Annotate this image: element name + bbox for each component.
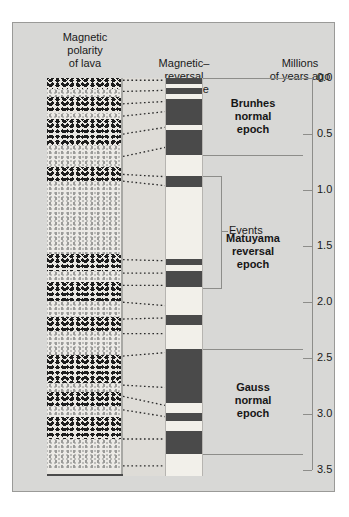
magnetic-reversal-timescale <box>165 78 203 476</box>
lava-column-title: Magnetic polarity of lava <box>37 31 133 70</box>
lava-layer-reversed <box>47 383 123 392</box>
lava-layer-normal <box>47 167 123 182</box>
lava-layer-normal <box>47 119 123 145</box>
events-bracket-group <box>203 78 249 476</box>
lava-layer-normal <box>47 282 123 301</box>
lava-layer-normal <box>47 417 123 439</box>
correlation-line <box>123 385 165 387</box>
lava-layer-reversed <box>47 89 123 97</box>
events-bracket <box>203 176 222 289</box>
normal-polarity-band <box>166 349 203 403</box>
normal-polarity-band <box>166 431 203 453</box>
lava-layer-reversed <box>47 271 123 282</box>
correlation-line <box>123 102 165 104</box>
axis-tick-label: 2.0 <box>317 295 332 307</box>
lava-baseline-rule <box>47 474 123 476</box>
lava-layer-reversed <box>47 406 123 416</box>
lava-layer-normal <box>47 392 123 407</box>
axis-tick <box>303 414 312 415</box>
lava-layer-reversed <box>47 301 123 317</box>
correlation-line <box>123 318 165 319</box>
normal-polarity-band <box>166 271 203 287</box>
lava-polarity-column <box>47 78 123 476</box>
axis-tick-label: 1.0 <box>317 183 332 195</box>
lava-layer-normal <box>47 355 123 383</box>
lava-layer-reversed <box>47 331 123 355</box>
normal-polarity-band <box>166 78 203 84</box>
normal-polarity-band <box>166 99 203 125</box>
events-label: Events <box>229 224 263 236</box>
correlation-line <box>123 302 165 305</box>
age-axis: 0.00.51.01.52.02.53.03.5 <box>303 63 349 483</box>
lava-layer-normal <box>47 97 123 113</box>
normal-polarity-band <box>166 88 203 94</box>
lava-layer-reversed <box>47 145 123 166</box>
normal-polarity-band <box>166 259 203 266</box>
axis-tick <box>303 470 312 471</box>
correlation-line <box>123 112 165 116</box>
axis-tick <box>303 134 312 135</box>
normal-polarity-band <box>166 315 203 325</box>
correlation-line <box>123 174 165 176</box>
axis-tick-label: 2.5 <box>317 351 332 363</box>
axis-tick-label: 1.5 <box>317 239 332 251</box>
lava-layer-normal <box>47 317 123 332</box>
correlation-line <box>123 181 165 185</box>
lava-layer-reversed <box>47 181 123 254</box>
figure-panel: Magnetic polarity of lava Magnetic– reve… <box>12 22 335 492</box>
events-bracket-stem <box>221 231 228 232</box>
lava-layer-normal <box>47 254 123 271</box>
correlation-tie-lines <box>123 78 165 476</box>
axis-spine <box>312 78 313 470</box>
lava-layer-normal <box>47 78 123 89</box>
correlation-line <box>123 353 165 356</box>
correlation-line <box>123 148 165 157</box>
axis-tick-label: 0.0 <box>317 71 332 83</box>
axis-tick <box>303 358 312 359</box>
normal-polarity-band <box>166 413 203 421</box>
axis-tick <box>303 246 312 247</box>
axis-tick-label: 0.5 <box>317 127 332 139</box>
correlation-line <box>123 90 165 91</box>
lava-layer-reversed <box>47 113 123 120</box>
axis-tick <box>303 302 312 303</box>
normal-polarity-band <box>166 176 203 187</box>
correlation-line <box>123 396 165 405</box>
correlation-line <box>123 410 165 417</box>
axis-tick-label: 3.0 <box>317 407 332 419</box>
correlation-line <box>123 260 165 261</box>
correlation-line <box>123 127 165 134</box>
normal-polarity-band <box>166 130 203 156</box>
axis-tick <box>303 78 312 79</box>
axis-tick-label: 3.5 <box>317 463 332 475</box>
lava-layer-reversed <box>47 439 123 470</box>
axis-tick <box>303 190 312 191</box>
